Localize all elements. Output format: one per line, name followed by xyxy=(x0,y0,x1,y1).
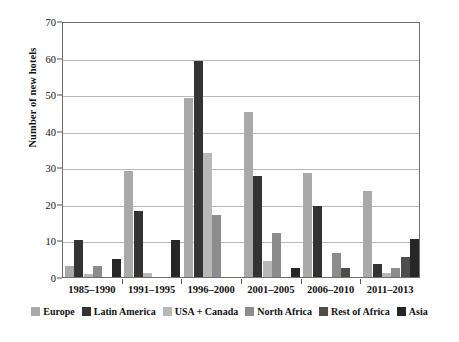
y-tick-label: 10 xyxy=(0,236,56,247)
bar xyxy=(313,206,322,277)
y-tick-label: 0 xyxy=(0,273,56,284)
legend-swatch-icon xyxy=(163,307,172,316)
bar xyxy=(382,273,391,277)
x-tick-mark xyxy=(301,279,302,284)
bar xyxy=(272,233,281,277)
bar xyxy=(65,266,74,277)
bar xyxy=(124,171,133,277)
bar xyxy=(93,266,102,277)
bar xyxy=(244,112,253,277)
y-tick-label: 60 xyxy=(0,53,56,64)
y-tick-label: 30 xyxy=(0,163,56,174)
bar xyxy=(373,264,382,277)
legend-item[interactable]: USA + Canada xyxy=(163,306,239,317)
legend-item[interactable]: Asia xyxy=(397,306,428,317)
bar xyxy=(332,253,341,277)
x-tick-mark xyxy=(241,279,242,284)
legend-swatch-icon xyxy=(319,307,328,316)
y-tick-label: 20 xyxy=(0,199,56,210)
legend-item[interactable]: Europe xyxy=(31,306,75,317)
bar xyxy=(194,61,203,277)
bar xyxy=(291,268,300,277)
x-axis-label: 2006–2010 xyxy=(307,284,354,295)
bar xyxy=(410,239,419,277)
bar-group xyxy=(302,23,362,277)
chart-legend: EuropeLatin AmericaUSA + CanadaNorth Afr… xyxy=(0,306,459,317)
y-tick-label: 40 xyxy=(0,126,56,137)
x-tick-mark xyxy=(181,279,182,284)
legend-label: USA + Canada xyxy=(175,306,239,317)
legend-label: Latin America xyxy=(94,306,156,317)
bar-group xyxy=(361,23,421,277)
bar-group xyxy=(242,23,302,277)
bar xyxy=(74,240,83,277)
bar xyxy=(341,268,350,277)
x-axis-label: 1985–1990 xyxy=(68,284,115,295)
x-axis-label: 2001–2005 xyxy=(247,284,294,295)
legend-swatch-icon xyxy=(397,307,406,316)
legend-item[interactable]: Latin America xyxy=(82,306,156,317)
bar xyxy=(184,98,193,277)
legend-label: Rest of Africa xyxy=(331,306,390,317)
bar xyxy=(212,215,221,277)
bar xyxy=(253,176,262,277)
bar xyxy=(143,273,152,277)
x-tick-mark xyxy=(360,279,361,284)
bar xyxy=(303,173,312,277)
x-axis-label: 1991–1995 xyxy=(128,284,175,295)
legend-label: Asia xyxy=(409,306,428,317)
y-tick-label: 70 xyxy=(0,17,56,28)
legend-swatch-icon xyxy=(31,307,40,316)
bar-group xyxy=(182,23,242,277)
bar xyxy=(263,261,272,277)
bar xyxy=(112,259,121,277)
bar xyxy=(363,191,372,277)
bar-group xyxy=(63,23,123,277)
bar xyxy=(203,153,212,277)
x-axis-label: 2011–2013 xyxy=(367,284,414,295)
bar-group xyxy=(123,23,183,277)
y-tick-label: 50 xyxy=(0,90,56,101)
legend-item[interactable]: North Africa xyxy=(245,306,312,317)
legend-label: Europe xyxy=(43,306,75,317)
bar xyxy=(401,257,410,277)
bar xyxy=(171,240,180,277)
legend-swatch-icon xyxy=(82,307,91,316)
plot-area xyxy=(62,22,420,278)
legend-item[interactable]: Rest of Africa xyxy=(319,306,390,317)
legend-label: North Africa xyxy=(257,306,312,317)
x-axis-label: 1996–2000 xyxy=(188,284,235,295)
bar xyxy=(134,211,143,277)
bar xyxy=(391,268,400,277)
legend-swatch-icon xyxy=(245,307,254,316)
bar-chart: Number of new hotels 010203040506070 198… xyxy=(0,0,459,342)
x-tick-mark xyxy=(122,279,123,284)
bar xyxy=(84,274,93,277)
